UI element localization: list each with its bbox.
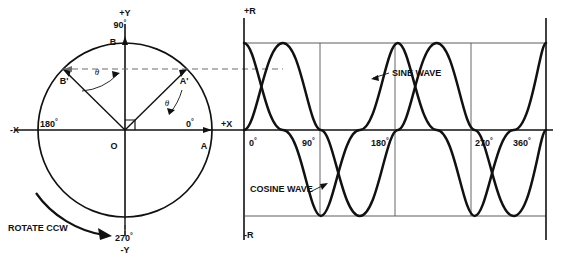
theta-arc-right-arrowhead [167,108,175,115]
x-axis-arrowhead [203,127,212,133]
label-270-degrees: 270° [115,232,133,244]
label-point-b: B [110,37,117,47]
xtick-270: 270° [475,137,493,149]
circle-diagram-group: +Y 90° -Y 270° -X 180° +X 0° O A B A' B'… [8,8,283,255]
xtick-90: 90° [302,137,315,149]
sine-cosine-generation-figure: +Y 90° -Y 270° -X 180° +X 0° O A B A' B'… [0,0,565,258]
xtick-180: 180° [371,137,389,149]
xtick-360: 360° [513,137,531,149]
radius-to-b-prime [63,69,125,130]
label-neg-r: -R [244,230,254,240]
sine-wave-leader-arrowhead [371,75,379,81]
label-point-b-prime: B' [60,76,69,86]
label-pos-y: +Y [119,8,130,18]
radius-to-a-prime [125,69,187,130]
rotate-ccw-arrowhead [98,228,112,240]
sine-wave-label: SINE WAVE [392,68,441,78]
wave-plot-group: +R -R 0° 90° 180° 270° 360° SINE WAVE CO… [244,6,553,240]
label-0-degrees: 0° [186,118,194,130]
cosine-wave-label: COSINE WAVE [250,184,313,194]
label-point-a-prime: A' [180,76,189,86]
label-point-o: O [110,141,117,151]
theta-label-left: θ [95,67,100,77]
theta-arc-left [82,74,118,91]
theta-arc-left-arrowhead [112,71,120,78]
xtick-0: 0° [249,137,257,149]
label-pos-x: +X [221,119,232,129]
figure-canvas: +Y 90° -Y 270° -X 180° +X 0° O A B A' B'… [0,0,565,258]
label-neg-x: -X [10,125,19,135]
label-pos-r: +R [244,6,256,16]
label-point-a: A [201,141,208,151]
cosine-wave-leader-arrowhead [320,183,328,190]
theta-label-right: θ [165,98,170,108]
label-180-degrees: 180° [40,118,58,130]
rotate-ccw-label: ROTATE CCW [8,223,68,233]
label-neg-y: -Y [121,245,130,255]
